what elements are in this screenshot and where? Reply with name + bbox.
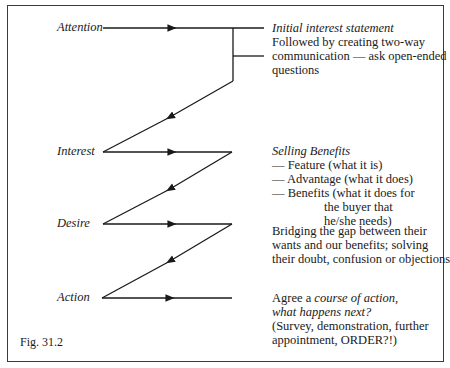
interest-note-item-cont: the buyer that — [272, 200, 415, 214]
attention-note-line: questions — [272, 63, 447, 77]
action-note-italic: course of action, — [314, 291, 398, 305]
diagonal-1 — [103, 116, 172, 152]
desire-note-line: Bridging the gap between their — [272, 224, 450, 238]
attention-note-line: Followed by creating two-way — [272, 35, 447, 49]
stage-action: Action — [57, 290, 90, 305]
interest-note-item: — Benefits (what it does for — [272, 186, 415, 200]
desire-note: Bridging the gap between their wants and… — [272, 224, 450, 266]
action-note-line: (Survey, demonstration, further — [272, 319, 429, 333]
diagonal-1-arrow — [170, 81, 233, 117]
diagonal-3 — [102, 260, 172, 298]
desire-note-line: wants and our benefits; solving — [272, 238, 450, 252]
diagonal-3-arrow — [170, 224, 232, 261]
attention-note-heading: Initial interest statement — [272, 21, 447, 35]
stage-interest: Interest — [57, 144, 95, 159]
interest-note: Selling Benefits — Feature (what it is) … — [272, 144, 415, 228]
diagonal-2-arrow — [170, 152, 232, 189]
desire-note-line: their doubt, confusion or objections — [272, 252, 450, 266]
diagonal-2 — [103, 188, 172, 224]
attention-note: Initial interest statement Followed by c… — [272, 21, 447, 77]
figure-caption: Fig. 31.2 — [20, 335, 63, 350]
action-note-line: appointment, ORDER?!) — [272, 333, 429, 347]
interest-note-heading: Selling Benefits — [272, 144, 415, 158]
action-note-italic: what happens next? — [272, 305, 429, 319]
action-note-prefix: Agree a — [272, 291, 314, 305]
stage-attention: Attention — [57, 20, 103, 35]
interest-note-item: — Feature (what it is) — [272, 158, 415, 172]
stage-desire: Desire — [57, 216, 90, 231]
interest-note-item: — Advantage (what it does) — [272, 172, 415, 186]
attention-note-line: communication — ask open-ended — [272, 49, 447, 63]
action-note: Agree a course of action, what happens n… — [272, 291, 429, 347]
